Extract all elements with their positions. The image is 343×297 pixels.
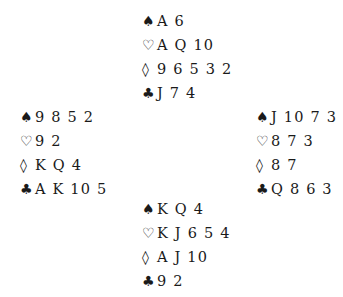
east-clubs: ♣Q 8 6 3 bbox=[256, 177, 337, 201]
diamond-icon: ◊ bbox=[142, 57, 157, 81]
south-diamonds: ◊A J 10 bbox=[142, 245, 231, 269]
west-hand: ♠9 8 5 2 ♡9 2 ◊K Q 4 ♣A K 10 5 bbox=[20, 105, 107, 201]
east-hearts: ♡8 7 3 bbox=[256, 129, 337, 153]
north-hearts: ♡A Q 10 bbox=[142, 33, 232, 57]
south-hearts: ♡K J 6 5 4 bbox=[142, 221, 231, 245]
east-diamonds: ◊8 7 bbox=[256, 153, 337, 177]
diamond-icon: ◊ bbox=[20, 153, 35, 177]
spade-icon: ♠ bbox=[142, 9, 157, 33]
club-icon: ♣ bbox=[142, 81, 157, 105]
north-spades: ♠A 6 bbox=[142, 9, 232, 33]
south-spades: ♠K Q 4 bbox=[142, 197, 231, 221]
west-diamonds: ◊K Q 4 bbox=[20, 153, 107, 177]
spade-icon: ♠ bbox=[20, 105, 35, 129]
diamond-icon: ◊ bbox=[142, 245, 157, 269]
west-spades: ♠9 8 5 2 bbox=[20, 105, 107, 129]
west-clubs: ♣A K 10 5 bbox=[20, 177, 107, 201]
north-hand: ♠A 6 ♡A Q 10 ◊9 6 5 3 2 ♣J 7 4 bbox=[142, 9, 232, 105]
heart-icon: ♡ bbox=[20, 129, 35, 153]
club-icon: ♣ bbox=[256, 177, 271, 201]
west-hearts: ♡9 2 bbox=[20, 129, 107, 153]
south-clubs: ♣9 2 bbox=[142, 269, 231, 293]
club-icon: ♣ bbox=[20, 177, 35, 201]
spade-icon: ♠ bbox=[256, 105, 271, 129]
north-diamonds: ◊9 6 5 3 2 bbox=[142, 57, 232, 81]
spade-icon: ♠ bbox=[142, 197, 157, 221]
south-hand: ♠K Q 4 ♡K J 6 5 4 ◊A J 10 ♣9 2 bbox=[142, 197, 231, 293]
heart-icon: ♡ bbox=[142, 221, 157, 245]
diamond-icon: ◊ bbox=[256, 153, 271, 177]
east-hand: ♠J 10 7 3 ♡8 7 3 ◊8 7 ♣Q 8 6 3 bbox=[256, 105, 337, 201]
east-spades: ♠J 10 7 3 bbox=[256, 105, 337, 129]
club-icon: ♣ bbox=[142, 269, 157, 293]
heart-icon: ♡ bbox=[142, 33, 157, 57]
north-clubs: ♣J 7 4 bbox=[142, 81, 232, 105]
heart-icon: ♡ bbox=[256, 129, 271, 153]
